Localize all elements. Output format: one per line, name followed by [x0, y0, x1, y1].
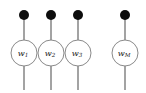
gate-label-3-sub: 3: [79, 52, 83, 58]
gate-label-1-base: w: [18, 48, 25, 58]
wire-column-2: w2: [38, 10, 64, 90]
terminal-dot-m: [120, 10, 130, 20]
gate-label-3-base: w: [72, 48, 79, 58]
gate-label-m-sub: M: [124, 52, 131, 58]
gate-label-m-base: w: [118, 48, 125, 58]
terminal-dot-3: [73, 10, 83, 20]
terminal-dot-1: [19, 10, 29, 20]
wire-column-m: wM: [112, 10, 138, 90]
gate-label-1-sub: 1: [25, 52, 29, 58]
wire-diagram-svg: w1 w2 w3 wM: [0, 0, 146, 93]
gate-label-2-sub: 2: [51, 52, 56, 58]
gate-label-2-base: w: [45, 48, 52, 58]
terminal-dot-2: [46, 10, 56, 20]
diagram-canvas: w1 w2 w3 wM: [0, 0, 146, 93]
wire-column-3: w3: [65, 10, 91, 90]
wire-column-1: w1: [11, 10, 37, 90]
